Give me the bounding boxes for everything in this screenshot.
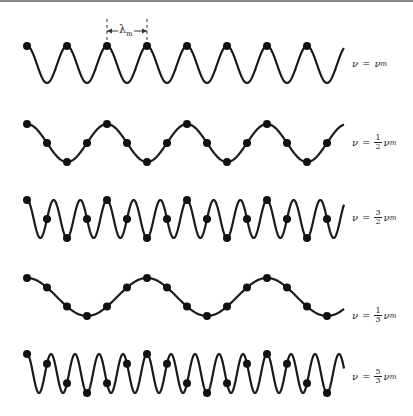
- sample-dot: [143, 42, 151, 50]
- sample-dot: [203, 139, 211, 147]
- sample-dot: [43, 284, 51, 292]
- sample-dot: [223, 42, 231, 50]
- sample-dot: [283, 284, 291, 292]
- sample-dot: [183, 120, 191, 128]
- sample-dot: [283, 215, 291, 223]
- sample-dot: [323, 389, 331, 397]
- sample-dot: [123, 360, 131, 368]
- sample-dot: [183, 379, 191, 387]
- label-half-nu-m: ν=12νm: [352, 134, 396, 151]
- subscript-m: m: [390, 139, 397, 147]
- nu-symbol: ν: [352, 310, 358, 321]
- sample-dot: [103, 120, 111, 128]
- sample-dot: [83, 139, 91, 147]
- sample-dot: [63, 379, 71, 387]
- sample-dot: [263, 350, 271, 358]
- wave-curve: [27, 46, 344, 83]
- denominator: 2: [375, 143, 380, 151]
- sample-dot: [243, 284, 251, 292]
- nu-symbol: ν: [352, 371, 358, 382]
- equals-sign: =: [362, 58, 370, 69]
- sample-dot: [163, 360, 171, 368]
- sample-dot: [303, 234, 311, 242]
- subscript-m: m: [381, 60, 388, 68]
- sample-dot: [143, 350, 151, 358]
- sample-dot: [183, 303, 191, 311]
- equals-sign: =: [362, 137, 370, 148]
- sample-dot: [83, 312, 91, 320]
- sample-dot: [83, 215, 91, 223]
- fraction: 13: [374, 307, 381, 324]
- sample-dot: [143, 234, 151, 242]
- sample-dot: [103, 303, 111, 311]
- sample-dot: [323, 215, 331, 223]
- label-three-halves-nu-m: ν=32νm: [352, 209, 396, 226]
- wave-three-halves-nu-m: [23, 196, 344, 242]
- wave-third-nu-m: [23, 274, 344, 320]
- wave-curve: [27, 200, 344, 238]
- sample-dot: [283, 360, 291, 368]
- sample-dot: [303, 303, 311, 311]
- denominator: 2: [375, 218, 380, 226]
- sample-dot: [23, 42, 31, 50]
- wave-nu-m: [23, 42, 344, 83]
- fraction: 53: [374, 368, 381, 385]
- sample-dot: [223, 234, 231, 242]
- sample-dot: [203, 312, 211, 320]
- sample-dot: [183, 196, 191, 204]
- sample-dot: [23, 274, 31, 282]
- denominator: 3: [375, 377, 380, 385]
- sample-dot: [143, 274, 151, 282]
- sample-dot: [223, 303, 231, 311]
- sample-dot: [63, 158, 71, 166]
- sample-dot: [303, 379, 311, 387]
- sample-dot: [243, 215, 251, 223]
- sample-dot: [123, 215, 131, 223]
- sample-dot: [203, 389, 211, 397]
- sample-dot: [263, 120, 271, 128]
- wave-curve: [27, 354, 344, 393]
- sample-dot: [263, 42, 271, 50]
- fraction: 32: [374, 209, 381, 226]
- subscript-m: m: [390, 373, 397, 381]
- sample-dot: [143, 158, 151, 166]
- sample-dot: [203, 215, 211, 223]
- sample-dot: [23, 196, 31, 204]
- sample-dot: [103, 196, 111, 204]
- wave-five-thirds-nu-m: [23, 350, 344, 397]
- sample-dot: [303, 158, 311, 166]
- fraction: 12: [374, 134, 381, 151]
- sample-dot: [163, 284, 171, 292]
- denominator: 3: [375, 316, 380, 324]
- arrow-left-icon: [107, 29, 112, 34]
- subscript-m: m: [390, 312, 397, 320]
- equals-sign: =: [362, 212, 370, 223]
- sample-dot: [63, 234, 71, 242]
- sample-dot: [263, 196, 271, 204]
- lambda-symbol: λ: [119, 23, 126, 36]
- sample-dot: [103, 379, 111, 387]
- sample-dot: [103, 42, 111, 50]
- sample-dot: [223, 158, 231, 166]
- sample-dot: [163, 139, 171, 147]
- sample-dot: [243, 139, 251, 147]
- sample-dot: [43, 139, 51, 147]
- lambda-subscript: m: [126, 30, 133, 38]
- sample-dot: [43, 360, 51, 368]
- wave-half-nu-m: [23, 120, 344, 166]
- wave-curve: [27, 278, 344, 316]
- arrow-right-icon: [142, 29, 147, 34]
- sample-dot: [183, 42, 191, 50]
- subscript-m: m: [390, 214, 397, 222]
- sample-dot: [283, 139, 291, 147]
- label-nu-m: ν=νm: [352, 58, 387, 69]
- sample-dot: [243, 360, 251, 368]
- sample-dot: [303, 42, 311, 50]
- sample-dot: [263, 274, 271, 282]
- label-third-nu-m: ν=13νm: [352, 307, 396, 324]
- lambda-m-label: λm: [118, 23, 134, 38]
- sample-dot: [23, 350, 31, 358]
- sample-dot: [63, 303, 71, 311]
- sample-dot: [323, 312, 331, 320]
- sample-dot: [123, 284, 131, 292]
